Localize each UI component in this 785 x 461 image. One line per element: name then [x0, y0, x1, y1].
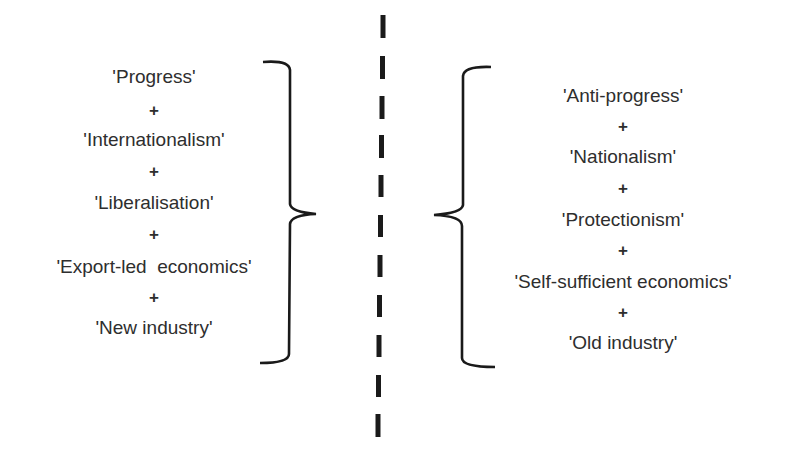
- concept-protectionism: 'Protectionism': [478, 209, 768, 231]
- plus-sign: +: [478, 116, 768, 138]
- plus-sign: +: [23, 287, 285, 309]
- right-concept-group: 'Anti-progress' + 'Nationalism' + 'Prote…: [478, 0, 768, 461]
- left-concept-group: 'Progress' + 'Internationalism' + 'Liber…: [23, 0, 285, 461]
- concept-old-industry: 'Old industry': [478, 332, 768, 354]
- concept-anti-progress: 'Anti-progress': [478, 85, 768, 107]
- divider-dashed-line: [378, 15, 383, 437]
- plus-sign: +: [23, 161, 285, 183]
- concept-nationalism: 'Nationalism': [478, 146, 768, 168]
- plus-sign: +: [478, 178, 768, 200]
- plus-sign: +: [23, 100, 285, 122]
- plus-sign: +: [23, 224, 285, 246]
- concept-export-led-economics: 'Export-led economics': [23, 256, 285, 278]
- concept-liberalisation: 'Liberalisation': [23, 192, 285, 214]
- concept-new-industry: 'New industry': [23, 317, 285, 339]
- concept-progress: 'Progress': [23, 66, 285, 88]
- concept-self-sufficient-economics: 'Self-sufficient economics': [478, 271, 768, 293]
- plus-sign: +: [478, 240, 768, 262]
- plus-sign: +: [478, 302, 768, 324]
- concept-internationalism: 'Internationalism': [23, 129, 285, 151]
